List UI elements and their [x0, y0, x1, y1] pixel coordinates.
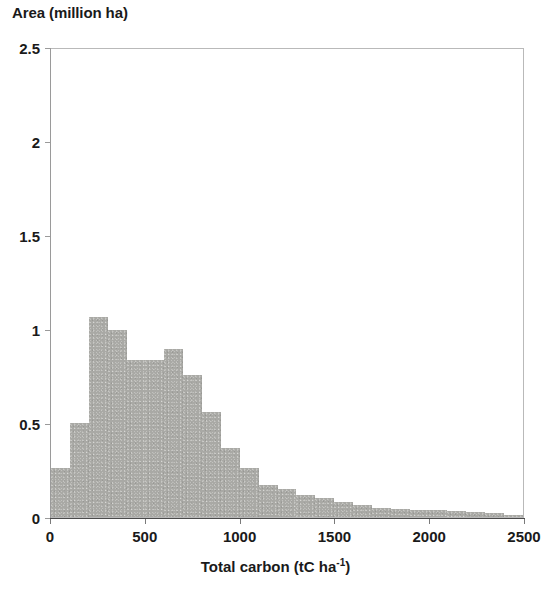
y-axis-tick	[45, 236, 50, 237]
bar	[466, 512, 485, 517]
bar	[183, 375, 202, 517]
x-axis-title-superscript: -1	[336, 557, 345, 568]
bar	[108, 330, 127, 517]
x-axis-title-tail: )	[345, 558, 350, 575]
bar	[164, 349, 183, 517]
x-axis-tick	[524, 519, 525, 524]
x-axis-tick	[50, 519, 51, 524]
bar	[259, 485, 278, 517]
x-axis-tick-label: 500	[132, 528, 157, 545]
y-axis-tick	[45, 424, 50, 425]
y-axis-tick-label: 1	[0, 322, 40, 339]
bar	[296, 495, 315, 517]
bar	[51, 468, 70, 517]
y-axis-title: Area (million ha)	[12, 4, 128, 21]
bar	[127, 360, 146, 517]
x-axis-tick-label: 2000	[413, 528, 446, 545]
y-axis-line	[50, 48, 51, 519]
x-axis-tick-label: 1500	[318, 528, 351, 545]
x-axis-title-main: Total carbon (tC ha	[201, 558, 337, 575]
bar	[391, 509, 410, 517]
y-axis-tick	[45, 330, 50, 331]
bar	[240, 468, 259, 517]
plot-area	[50, 48, 524, 518]
bar	[372, 508, 391, 517]
y-axis-tick-label: 1.5	[0, 228, 40, 245]
bar	[353, 505, 372, 517]
x-axis-tick-label: 1000	[223, 528, 256, 545]
x-axis-title: Total carbon (tC ha-1)	[0, 558, 551, 575]
bar	[315, 498, 334, 517]
bar	[334, 502, 353, 517]
bar	[202, 412, 221, 517]
x-axis-line	[50, 518, 525, 519]
x-axis-tick	[240, 519, 241, 524]
bar	[447, 511, 466, 517]
x-axis-tick	[334, 519, 335, 524]
bar	[70, 423, 89, 517]
y-axis-tick-label: 0	[0, 510, 40, 527]
bar	[429, 510, 448, 517]
y-axis-tick-label: 2.5	[0, 40, 40, 57]
x-axis-tick	[145, 519, 146, 524]
y-axis-tick	[45, 142, 50, 143]
histogram-figure: Area (million ha) 00.511.522.5 050010001…	[0, 0, 551, 589]
bar	[221, 448, 240, 517]
bar	[145, 360, 164, 517]
x-axis-tick-label: 0	[46, 528, 54, 545]
y-axis-tick	[45, 48, 50, 49]
y-axis-tick-label: 2	[0, 134, 40, 151]
x-axis-tick-label: 2500	[507, 528, 540, 545]
bar	[504, 515, 523, 517]
bar	[485, 513, 504, 517]
x-axis-tick	[429, 519, 430, 524]
bar-series	[51, 49, 523, 517]
bar	[89, 317, 108, 517]
y-axis-tick-label: 0.5	[0, 416, 40, 433]
bar	[278, 489, 297, 517]
bar	[410, 510, 429, 517]
